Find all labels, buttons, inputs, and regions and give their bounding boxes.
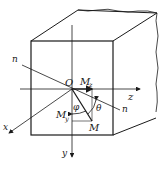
label-n-left: n bbox=[12, 54, 18, 64]
right-face-break-edge bbox=[156, 13, 158, 112]
label-theta: θ bbox=[96, 103, 102, 113]
beam-diagram: n n O M z z φ θ M y M x y bbox=[0, 0, 162, 169]
axes bbox=[9, 25, 140, 157]
label-origin-O: O bbox=[65, 77, 73, 88]
beam-block bbox=[31, 9, 158, 135]
right-face-bottom-edge bbox=[113, 118, 156, 135]
label-x-axis: x bbox=[3, 122, 8, 132]
label-y-axis: y bbox=[61, 148, 68, 158]
label-phi: φ bbox=[73, 102, 80, 112]
label-M: M bbox=[88, 122, 100, 133]
top-face bbox=[31, 10, 157, 41]
labels: n n O M z z φ θ M y M x y bbox=[3, 54, 134, 158]
label-My-sub: y bbox=[64, 115, 69, 123]
label-n-right: n bbox=[122, 104, 128, 114]
label-z-axis: z bbox=[127, 91, 134, 102]
label-Mz-sub: z bbox=[88, 81, 93, 89]
